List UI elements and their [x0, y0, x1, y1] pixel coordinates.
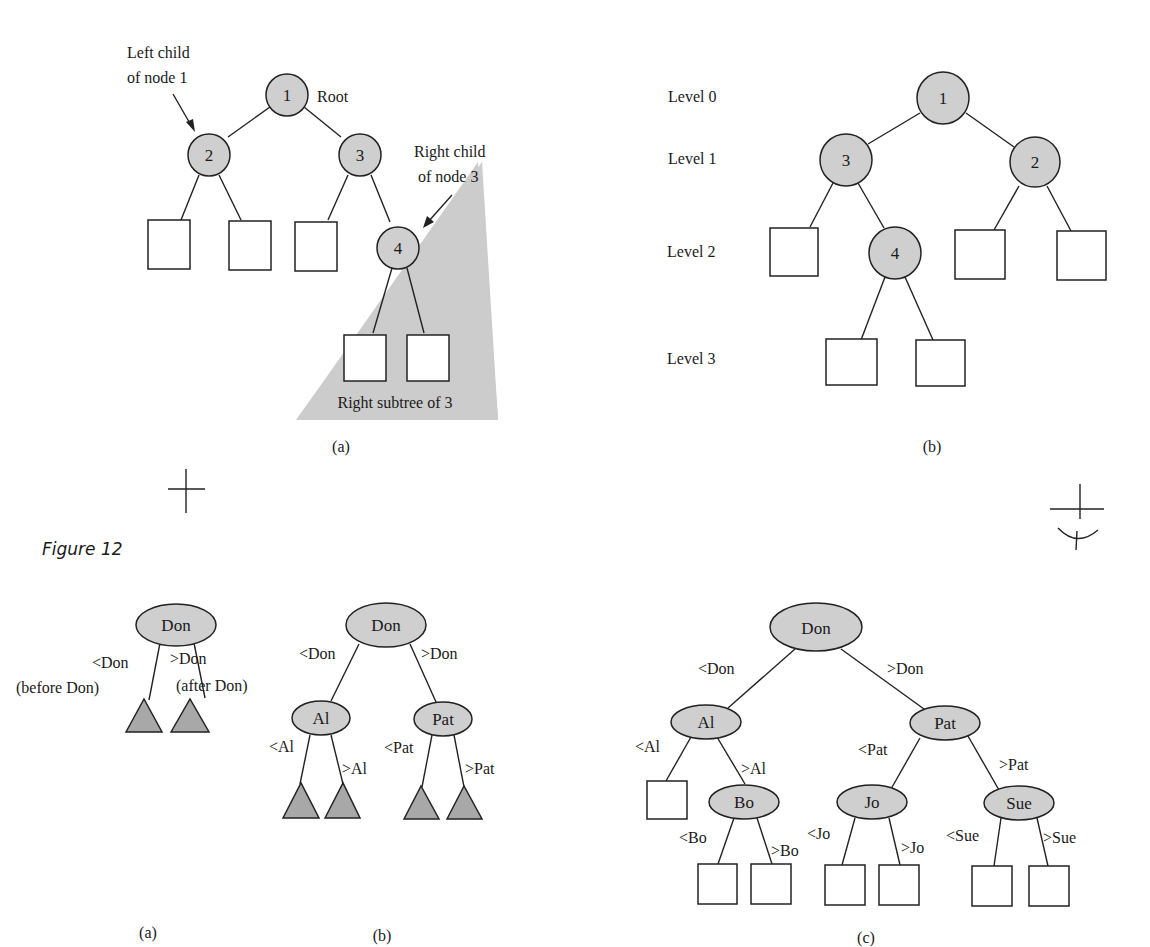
edge-label: >Al [342, 760, 368, 777]
bottom-diagram-a: Don <Don >Don (before Don) (after Don) (… [16, 604, 248, 942]
subtree-triangle [126, 699, 162, 732]
top-diagram-a: 1 2 3 4 Left child of node 1 Root Right … [127, 44, 498, 456]
leaf-box [344, 335, 386, 381]
level-label-0: Level 0 [668, 88, 716, 105]
node-label-4: 4 [891, 244, 900, 263]
root-annotation: Root [317, 88, 349, 105]
caption-bottom-b: (b) [373, 927, 392, 945]
level-label-2: Level 2 [667, 243, 715, 260]
node-label-pat: Pat [934, 714, 956, 733]
edge-label-after-don: (after Don) [176, 677, 248, 695]
node-label-sue: Sue [1006, 794, 1032, 813]
node-label-1: 1 [939, 89, 948, 108]
edge-label: >Pat [999, 756, 1029, 773]
bottom-diagram-b: Don Al Pat <Don >Don <Al >Al <Pat >Pat (… [269, 603, 495, 945]
level-label-3: Level 3 [667, 350, 715, 367]
leaf-box [229, 221, 271, 270]
edge-label-less-don: <Don [92, 654, 129, 671]
leaf-box [647, 781, 687, 819]
edge-label: <Bo [679, 829, 707, 846]
edge-label: <Al [635, 738, 661, 755]
diagram-canvas: 1 2 3 4 Left child of node 1 Root Right … [0, 0, 1150, 947]
edge-label: <Don [698, 660, 735, 677]
edge-label: <Sue [946, 827, 979, 844]
node-label-jo: Jo [864, 793, 879, 812]
top-diagram-b: Level 0 Level 1 Level 2 Level 3 1 3 2 4 … [667, 72, 1106, 456]
left-child-annotation-2: of node 1 [127, 69, 187, 86]
node-label-3: 3 [842, 151, 851, 170]
node-label-1: 1 [283, 86, 292, 105]
node-label-3: 3 [356, 146, 365, 165]
edge-label: <Pat [858, 741, 888, 758]
leaf-box [826, 339, 877, 385]
leaf-box [825, 865, 865, 905]
right-child-annotation-2: of node 3 [418, 168, 478, 185]
right-subtree-shade-fill [297, 162, 498, 419]
subtree-triangle [325, 783, 360, 818]
edge-label-greater-don: >Don [170, 650, 207, 667]
leaf-box [770, 228, 818, 276]
edge-label: <Pat [384, 739, 414, 756]
edge-label-before-don: (before Don) [16, 679, 99, 697]
node-label-al: Al [698, 713, 715, 732]
bottom-diagram-c: Don Al Pat Bo Jo Sue <Don >Don <Al >Al <… [635, 603, 1076, 947]
leaf-box [295, 222, 337, 271]
caption-top-b: (b) [923, 438, 942, 456]
node-label-pat: Pat [432, 710, 454, 729]
figure-page: 1 2 3 4 Left child of node 1 Root Right … [0, 0, 1150, 947]
left-child-annotation-1: Left child [127, 44, 190, 61]
leaf-box [407, 335, 449, 381]
caption-bottom-c: (c) [857, 929, 875, 947]
leaf-box [879, 865, 919, 905]
node-label-2: 2 [205, 146, 214, 165]
leaf-box [148, 220, 190, 269]
node-label-al: Al [313, 709, 330, 728]
edge-label: >Pat [465, 760, 495, 777]
edge-label: <Al [269, 738, 295, 755]
arrowhead-icon [186, 119, 195, 132]
edge-label: >Al [741, 760, 767, 777]
edge-label: >Don [421, 645, 458, 662]
leaf-box [972, 866, 1012, 906]
right-subtree-label: Right subtree of 3 [337, 394, 452, 412]
node-label-don: Don [161, 616, 191, 635]
edge-label: >Sue [1043, 829, 1076, 846]
leaf-box [1057, 231, 1106, 280]
caption-bottom-a: (a) [139, 924, 157, 942]
leaf-box [955, 230, 1005, 279]
edge-label: >Bo [771, 842, 799, 859]
node-label-don: Don [801, 619, 831, 638]
subtree-triangle [283, 783, 319, 818]
edge-label: <Don [299, 645, 336, 662]
subtree-triangle [171, 699, 209, 732]
leaf-box [1029, 866, 1069, 906]
registration-marks [168, 469, 1104, 550]
edge-label: >Don [887, 660, 924, 677]
edge-label: <Jo [807, 825, 830, 842]
subtree-triangle [447, 786, 482, 819]
subtree-triangle [404, 786, 439, 819]
node-label-don: Don [371, 616, 401, 635]
leaf-box [751, 864, 791, 904]
caption-top-a: (a) [332, 438, 350, 456]
level-label-1: Level 1 [668, 150, 716, 167]
figure-title: Figure 12 [42, 539, 123, 559]
node-label-4: 4 [394, 239, 403, 258]
right-child-annotation-1: Right child [414, 143, 486, 161]
leaf-box [698, 864, 737, 904]
node-label-2: 2 [1031, 153, 1040, 172]
edge-label: >Jo [901, 839, 924, 856]
node-label-bo: Bo [734, 793, 754, 812]
leaf-box [916, 340, 965, 386]
